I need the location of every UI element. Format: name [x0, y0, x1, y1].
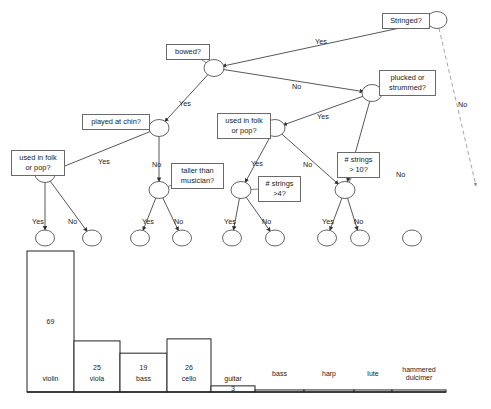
bar-value-label-4: 3	[211, 385, 255, 392]
bar-category-label-2: bass	[120, 375, 167, 382]
bar-2	[120, 353, 167, 392]
bar-category-label-3: cello	[167, 375, 211, 382]
bar-category-label-7: lute	[354, 370, 392, 377]
bar-chart	[0, 0, 491, 409]
bar-value-label-0: 69	[27, 318, 74, 325]
bar-category-label-0: violin	[27, 375, 74, 382]
bar-category-label-4: guitar	[211, 375, 255, 382]
bar-category-label-8: hammered dulcimer	[392, 366, 446, 382]
bar-value-label-1: 25	[74, 364, 120, 371]
bar-value-label-2: 19	[120, 364, 167, 371]
bar-category-label-5: bass	[255, 370, 304, 377]
diagram-canvas: YesNoYesNoYesNoYesNoYesNoYesNoYesNoYesNo…	[0, 0, 491, 409]
bar-category-label-6: harp	[304, 370, 354, 377]
bar-category-label-1: viola	[74, 375, 120, 382]
bar-value-label-3: 26	[167, 364, 211, 371]
